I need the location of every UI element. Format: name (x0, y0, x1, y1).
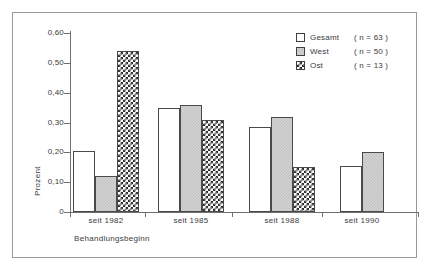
legend-swatch-gesamt-icon (296, 33, 305, 42)
bar-west-seit-1985 (180, 105, 202, 212)
chart-screenshot: 00,100,200,300,400,500,60 seit 1982seit … (0, 0, 430, 274)
legend-item-west: West( n = 50 ) (296, 44, 388, 58)
legend-series-name: Ost (310, 61, 354, 70)
x-category-label: seit 1988 (252, 216, 312, 225)
legend-series-name: West (310, 47, 354, 56)
legend-series-count: ( n = 50 ) (354, 47, 388, 56)
legend-item-ost: Ost( n = 13 ) (296, 58, 388, 72)
bar-west-seit-1982 (95, 176, 117, 212)
x-category-label: seit 1982 (76, 216, 136, 225)
bar-gesamt-seit-1982 (73, 151, 95, 212)
legend-series-name: Gesamt (310, 33, 354, 42)
legend-swatch-ost-icon (296, 61, 305, 70)
legend-series-count: ( n = 63 ) (354, 33, 388, 42)
legend-series-count: ( n = 13 ) (354, 61, 388, 70)
bar-ost-seit-1988 (293, 167, 315, 212)
legend-item-gesamt: Gesamt( n = 63 ) (296, 30, 388, 44)
bar-ost-seit-1982 (117, 51, 139, 212)
bar-gesamt-seit-1988 (249, 127, 271, 212)
legend: Gesamt( n = 63 )West( n = 50 )Ost( n = 1… (296, 30, 388, 72)
x-axis-title: Behandlungsbeginn (74, 234, 150, 243)
legend-swatch-west-icon (296, 47, 305, 56)
bar-ost-seit-1985 (202, 120, 224, 212)
bar-west-seit-1990 (362, 152, 384, 212)
x-category-label: seit 1985 (161, 216, 221, 225)
bar-gesamt-seit-1990 (340, 166, 362, 212)
x-category-label: seit 1990 (332, 216, 392, 225)
y-axis-title: Prozent (33, 166, 42, 196)
bar-west-seit-1988 (271, 117, 293, 212)
bar-gesamt-seit-1985 (158, 108, 180, 212)
